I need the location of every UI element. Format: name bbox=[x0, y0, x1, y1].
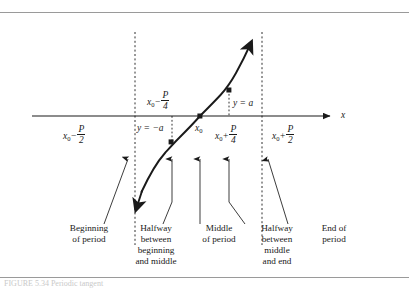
tick-label-middle-of-period: x0 bbox=[195, 124, 203, 135]
caption-line: period bbox=[306, 234, 362, 245]
caption-line: beginning bbox=[120, 245, 192, 256]
pointer-halfway-end bbox=[229, 159, 245, 224]
caption-line: and middle bbox=[120, 256, 192, 267]
fraction-numerator: P bbox=[77, 124, 85, 135]
fraction-numerator: P bbox=[161, 90, 169, 101]
label-y-equals-a: y = a bbox=[233, 99, 253, 109]
caption-line: between bbox=[120, 234, 192, 245]
caption-line: of period bbox=[58, 234, 120, 245]
point-minus-a bbox=[169, 139, 174, 144]
caption-line: and end bbox=[246, 256, 308, 267]
tick-op: − bbox=[71, 131, 77, 141]
tick-label-end-of-period: x0+P2 bbox=[272, 124, 295, 146]
tick-label-quarter-after-middle: x0+P4 bbox=[215, 124, 238, 146]
asymptote-lines bbox=[135, 32, 262, 245]
fraction-numerator: P bbox=[229, 124, 237, 135]
tick-fraction: P4 bbox=[161, 90, 169, 112]
point-plus-a bbox=[226, 88, 231, 93]
caption-line: Halfway bbox=[246, 223, 308, 234]
pointer-halfway-begin bbox=[163, 159, 172, 224]
pointer-beginning bbox=[104, 159, 128, 224]
fraction-denominator: 2 bbox=[77, 135, 85, 145]
figure-bottom-rule bbox=[0, 277, 409, 278]
tick-fraction: P2 bbox=[77, 124, 85, 146]
fraction-denominator: 2 bbox=[286, 135, 294, 145]
caption-middle-of-period: Middle of period bbox=[188, 223, 250, 245]
caption-end-of-period: End of period bbox=[306, 223, 362, 245]
caption-line: Beginning bbox=[58, 223, 120, 234]
tick-fraction: P2 bbox=[286, 124, 294, 146]
tick-op: + bbox=[280, 131, 286, 141]
tick-fraction: P4 bbox=[229, 124, 237, 146]
point-x0 bbox=[197, 114, 202, 119]
tick-op: − bbox=[155, 97, 161, 107]
pointer-end bbox=[268, 159, 288, 224]
figure-number-caption: FIGURE 5.34 Periodic tangent bbox=[4, 279, 103, 288]
caption-beginning-of-period: Beginning of period bbox=[58, 223, 120, 245]
label-y-equals-minus-a: y = −a bbox=[137, 124, 164, 134]
caption-pointers bbox=[104, 159, 288, 224]
tick-label-beginning-of-period: x0−P2 bbox=[63, 124, 86, 146]
fraction-numerator: P bbox=[286, 124, 294, 135]
fraction-denominator: 4 bbox=[229, 135, 237, 145]
fraction-denominator: 4 bbox=[161, 101, 169, 111]
caption-halfway-beginning-middle: Halfway between beginning and middle bbox=[120, 223, 192, 266]
caption-line: End of bbox=[306, 223, 362, 234]
caption-line: of period bbox=[188, 234, 250, 245]
caption-line: between bbox=[246, 234, 308, 245]
caption-line: Middle bbox=[188, 223, 250, 234]
figure-container: x x0−P2 x0−P4 x0 x0+P4 x0+P2 y = −a y = … bbox=[0, 0, 409, 290]
tick-label-quarter-before-middle: x0−P4 bbox=[147, 90, 170, 112]
tick-sub: 0 bbox=[199, 127, 202, 134]
x-axis-label: x bbox=[341, 111, 345, 121]
caption-halfway-middle-end: Halfway between middle and end bbox=[246, 223, 308, 266]
caption-line: Halfway bbox=[120, 223, 192, 234]
tick-op: + bbox=[223, 131, 229, 141]
caption-line: middle bbox=[246, 245, 308, 256]
